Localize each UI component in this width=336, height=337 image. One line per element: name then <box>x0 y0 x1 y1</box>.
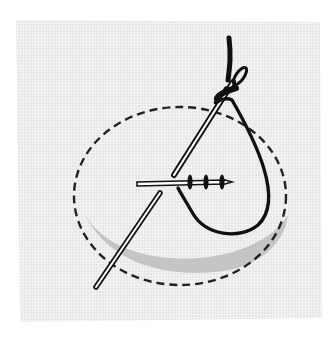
fabric-swatch <box>16 20 322 322</box>
illustration-canvas: Needle and thread stitching through fabr… <box>0 0 336 337</box>
